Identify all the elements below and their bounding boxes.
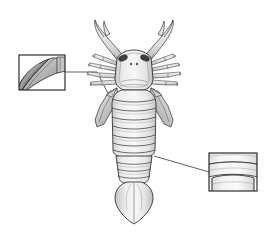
figure-root [0,0,268,235]
ocellus-left [130,63,132,65]
metasoma [116,156,152,183]
inset-paddle-detail [16,55,66,93]
anatomy-figure-svg [0,0,268,235]
ocellus-right [136,63,138,65]
inset-tergite-detail [206,150,260,196]
carapace [115,50,153,90]
mesosoma [112,90,156,157]
